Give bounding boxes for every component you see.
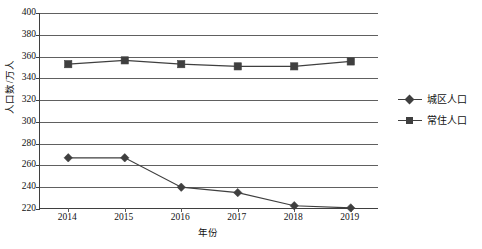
series-square xyxy=(65,57,355,70)
square-marker-icon xyxy=(291,63,298,70)
x-axis-tick-label: 2015 xyxy=(101,212,147,223)
x-axis-tick-label: 2017 xyxy=(214,212,260,223)
y-axis-tick-label: 400 xyxy=(10,8,36,18)
x-axis-tick-label: 2016 xyxy=(157,212,203,223)
y-axis-tick-label: 380 xyxy=(10,30,36,40)
y-axis-tick-labels: 400380360340320300280260240220 xyxy=(10,0,36,249)
x-axis-tick-label: 2018 xyxy=(270,212,316,223)
y-axis-tickmark xyxy=(36,209,40,210)
diamond-marker-icon xyxy=(290,202,298,210)
y-axis-tick-label: 240 xyxy=(10,182,36,192)
diamond-marker-icon xyxy=(177,183,185,191)
legend-entry-2[interactable]: 常住人口 xyxy=(398,110,482,131)
y-axis-tick-label: 220 xyxy=(10,204,36,214)
legend-key xyxy=(398,93,422,107)
square-marker-icon xyxy=(121,57,128,64)
square-marker-icon xyxy=(406,117,413,124)
legend-label: 常住人口 xyxy=(422,115,467,127)
plot-area xyxy=(39,13,378,209)
legend-entry-1[interactable]: 城区人口 xyxy=(398,89,482,110)
diamond-marker-icon xyxy=(64,154,72,162)
diamond-marker-icon xyxy=(234,188,242,196)
x-axis-title: 年份 xyxy=(39,228,378,239)
x-axis-tick-label: 2014 xyxy=(44,212,90,223)
diamond-marker-icon xyxy=(121,154,129,162)
square-marker-icon xyxy=(65,61,72,68)
x-axis-tick-label: 2019 xyxy=(327,212,373,223)
y-axis-tick-label: 300 xyxy=(10,117,36,127)
series-line xyxy=(68,60,351,66)
series-layer xyxy=(40,13,379,209)
y-axis-tick-label: 260 xyxy=(10,160,36,170)
diamond-marker-icon xyxy=(405,94,415,104)
square-marker-icon xyxy=(347,58,354,65)
population-line-chart: 人口数/万人 400380360340320300280260240220 20… xyxy=(0,0,482,249)
legend-key xyxy=(398,114,422,128)
y-axis-tick-label: 360 xyxy=(10,52,36,62)
x-axis-tick-labels: 201420152016201720182019 xyxy=(39,212,378,226)
y-axis-tick-label: 280 xyxy=(10,139,36,149)
y-axis-tick-label: 320 xyxy=(10,95,36,105)
square-marker-icon xyxy=(178,61,185,68)
chart-legend: 城区人口常住人口 xyxy=(398,89,482,131)
diamond-marker-icon xyxy=(347,204,355,212)
square-marker-icon xyxy=(234,63,241,70)
y-axis-tick-label: 340 xyxy=(10,73,36,83)
legend-label: 城区人口 xyxy=(422,94,467,106)
series-diamond xyxy=(64,154,355,212)
series-line xyxy=(68,158,351,208)
